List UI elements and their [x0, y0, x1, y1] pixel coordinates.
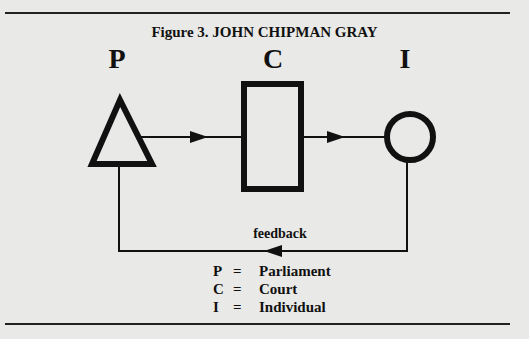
legend: P = Parliament C = Court I = Individual — [213, 262, 331, 316]
bottom-rule — [5, 323, 510, 325]
parliament-triangle — [92, 100, 152, 164]
legend-name: Court — [259, 280, 297, 298]
legend-row-individual: I = Individual — [213, 298, 331, 316]
arrowhead-p-to-c — [190, 131, 208, 143]
legend-symbol: I — [213, 298, 233, 316]
feedback-label: feedback — [240, 226, 320, 242]
legend-row-parliament: P = Parliament — [213, 262, 331, 280]
arrowhead-feedback — [264, 245, 282, 257]
legend-row-court: C = Court — [213, 280, 331, 298]
legend-name: Parliament — [259, 262, 331, 280]
legend-symbol: C — [213, 280, 233, 298]
legend-equals: = — [233, 298, 259, 316]
arrowhead-c-to-i — [327, 131, 345, 143]
individual-circle — [387, 114, 433, 160]
court-rectangle — [244, 84, 301, 189]
legend-equals: = — [233, 262, 259, 280]
legend-name: Individual — [259, 298, 326, 316]
legend-equals: = — [233, 280, 259, 298]
legend-symbol: P — [213, 262, 233, 280]
